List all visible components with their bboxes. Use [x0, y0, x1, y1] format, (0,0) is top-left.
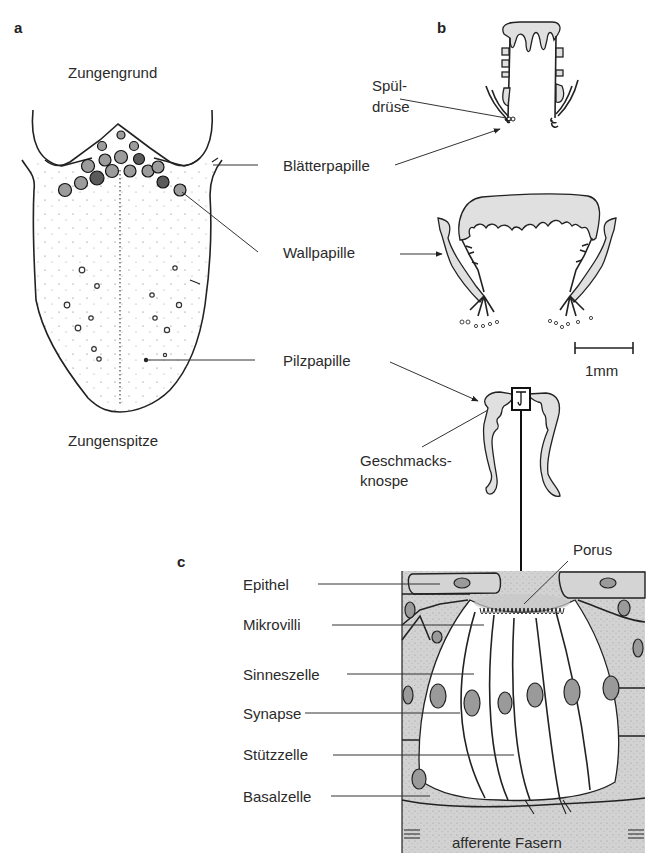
nucleus — [498, 692, 512, 714]
scale-bar: 1mm — [575, 342, 633, 379]
panel-letter-c: c — [177, 553, 185, 570]
papilla — [98, 142, 107, 151]
papilla — [115, 151, 128, 164]
gland-openings — [460, 316, 593, 328]
nucleus — [603, 676, 619, 700]
label-mikrovilli: Mikrovilli — [243, 616, 301, 633]
scale-bar-label: 1mm — [585, 362, 618, 379]
nucleus — [405, 602, 415, 618]
nucleus — [403, 686, 413, 704]
arrow-blaetterpapille — [395, 129, 500, 165]
panel-c: c — [177, 541, 645, 853]
papilla — [75, 177, 88, 190]
label-epithel: Epithel — [243, 576, 289, 593]
papilla — [124, 165, 136, 177]
papilla — [82, 160, 95, 173]
arrow-pilzpapille — [390, 362, 478, 401]
label-basalzelle: Basalzelle — [243, 788, 311, 805]
taste-bud-histology: afferente Fasern — [402, 571, 645, 853]
panel-letter-b: b — [437, 19, 446, 36]
label-spueldruese-2: drüse — [372, 98, 410, 115]
nucleus — [564, 679, 580, 705]
label-geschmacksknospe-2: knospe — [360, 472, 408, 489]
label-afferente-fasern: afferente Fasern — [452, 834, 562, 851]
label-zungengrund: Zungengrund — [68, 64, 157, 81]
leader-spueldruese — [400, 99, 506, 118]
papilla — [130, 142, 139, 151]
label-pilzpapille: Pilzpapille — [283, 352, 351, 369]
leader-geschmacksknospe — [422, 410, 488, 447]
panel-b: b Spül- drüse — [360, 19, 633, 582]
vallate-papilla-section — [438, 194, 616, 329]
papilla — [134, 154, 145, 165]
fungiform-papilla-section — [483, 388, 560, 582]
label-stuetzzelle: Stützzelle — [243, 746, 308, 763]
nucleus — [633, 639, 643, 657]
nucleus — [527, 683, 543, 707]
label-synapse: Synapse — [243, 705, 301, 722]
nucleus — [430, 684, 446, 708]
panel-letter-a: a — [14, 19, 23, 36]
foliate-papilla-section — [486, 22, 578, 127]
nucleus — [432, 631, 442, 643]
nucleus — [618, 600, 630, 616]
taste-anatomy-figure: a Zungengrund — [0, 0, 659, 859]
papilla — [157, 176, 169, 188]
papilla — [59, 184, 72, 197]
label-porus: Porus — [573, 541, 612, 558]
label-geschmacksknospe-1: Geschmacks- — [360, 452, 452, 469]
nucleus — [600, 578, 616, 588]
nucleus — [454, 578, 470, 588]
panel-a: a Zungengrund — [14, 19, 222, 449]
label-spueldruese-1: Spül- — [372, 77, 407, 94]
papilla — [117, 131, 125, 139]
tongue-illustration — [22, 110, 222, 412]
papilla — [106, 165, 119, 178]
label-blaetterpapille: Blätterpapille — [283, 157, 370, 174]
label-sinneszelle: Sinneszelle — [243, 666, 320, 683]
nucleus — [464, 690, 480, 716]
papilla — [99, 154, 111, 166]
papilla — [152, 161, 164, 173]
nucleus — [412, 769, 426, 789]
label-zungenspitze: Zungenspitze — [68, 432, 158, 449]
label-wallpapille: Wallpapille — [283, 244, 355, 261]
papilla — [90, 171, 104, 185]
tongue-body — [22, 160, 222, 412]
